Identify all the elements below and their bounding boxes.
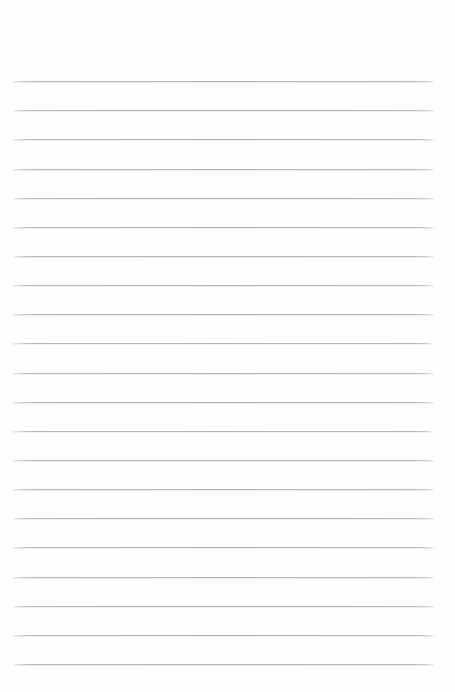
- ruled-line: [13, 285, 434, 286]
- ruled-line: [13, 547, 434, 548]
- ruled-line: [13, 402, 434, 403]
- paper-surface: [0, 0, 455, 692]
- ruled-line: [13, 227, 434, 228]
- ruled-line: [13, 169, 434, 170]
- ruled-line: [13, 139, 434, 140]
- ruled-line: [13, 256, 434, 257]
- ruled-line: [13, 606, 434, 607]
- ruled-line: [13, 343, 434, 344]
- lined-paper-page: [0, 0, 455, 692]
- ruled-line: [13, 577, 434, 578]
- ruled-line: [13, 489, 434, 490]
- ruled-line: [13, 664, 434, 665]
- ruled-line: [13, 518, 434, 519]
- ruled-line: [13, 635, 434, 636]
- ruled-line: [13, 81, 434, 82]
- ruled-line: [13, 110, 434, 111]
- ruled-line: [13, 373, 434, 374]
- ruled-line: [13, 198, 434, 199]
- ruled-line: [13, 431, 434, 432]
- ruled-line: [13, 460, 434, 461]
- ruled-line: [13, 314, 434, 315]
